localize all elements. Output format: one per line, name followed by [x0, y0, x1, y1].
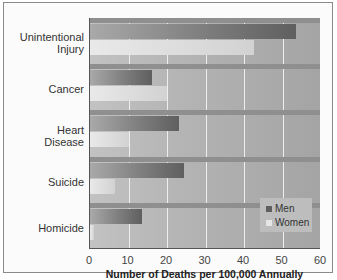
bar-men: [90, 163, 184, 178]
category-label: Cancer: [49, 83, 84, 95]
x-tick-label: 60: [314, 254, 326, 266]
legend-swatch-men: [266, 206, 272, 212]
x-tick-label: 40: [237, 254, 249, 266]
legend-item-men: Men: [266, 203, 294, 214]
legend-label-men: Men: [275, 203, 294, 214]
legend-swatch-women: [266, 220, 272, 226]
bar-women: [90, 225, 94, 240]
bar-women: [90, 40, 254, 55]
category-label: UnintentionalInjury: [20, 31, 84, 55]
category-separator: [90, 64, 320, 69]
x-axis-label: Number of Deaths per 100,000 Annually: [89, 268, 320, 280]
category-label: Suicide: [48, 176, 84, 188]
x-tick-label: 10: [121, 254, 133, 266]
category-separator: [90, 110, 320, 115]
bar-women: [90, 86, 167, 101]
x-tick-label: 20: [160, 254, 172, 266]
bar-men: [90, 24, 296, 39]
category-label: Homicide: [38, 222, 84, 234]
x-tick-label: 0: [86, 254, 92, 266]
category-label: HeartDisease: [44, 124, 84, 148]
bar-men: [90, 116, 179, 131]
bar-women: [90, 132, 129, 147]
bar-women: [90, 179, 115, 194]
category-separator: [90, 157, 320, 162]
bar-men: [90, 209, 142, 224]
category-separator: [90, 18, 320, 23]
legend-label-women: Women: [275, 217, 309, 228]
x-tick-label: 30: [198, 254, 210, 266]
x-tick-label: 50: [275, 254, 287, 266]
bar-men: [90, 70, 152, 85]
legend-item-women: Women: [266, 217, 309, 228]
legend: Men Women: [260, 198, 312, 232]
